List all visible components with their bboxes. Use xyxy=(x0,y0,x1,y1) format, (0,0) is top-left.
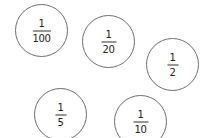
denominator: 10 xyxy=(134,124,146,134)
fraction-card-1-10: 1 10 xyxy=(114,95,167,138)
fraction: 1 5 xyxy=(55,102,66,127)
denominator: 100 xyxy=(32,33,50,43)
fraction: 1 10 xyxy=(133,109,148,134)
fraction-bar xyxy=(55,114,66,115)
denominator: 5 xyxy=(57,117,63,127)
numerator: 1 xyxy=(105,29,111,39)
fraction-bar xyxy=(133,121,148,122)
fraction-card-1-2: 1 2 xyxy=(146,38,199,91)
fraction-card-1-20: 1 20 xyxy=(82,15,135,68)
fraction: 1 20 xyxy=(101,29,116,54)
fraction: 1 100 xyxy=(32,18,50,43)
fraction-card-1-100: 1 100 xyxy=(15,4,68,57)
fraction-bar xyxy=(167,64,178,65)
denominator: 20 xyxy=(102,44,114,54)
fraction-bar xyxy=(33,30,51,31)
numerator: 1 xyxy=(57,102,63,112)
numerator: 1 xyxy=(137,109,143,119)
fraction-card-1-5: 1 5 xyxy=(34,88,87,138)
numerator: 1 xyxy=(169,52,175,62)
denominator: 2 xyxy=(169,67,175,77)
fraction: 1 2 xyxy=(167,52,178,77)
numerator: 1 xyxy=(38,18,44,28)
fraction-bar xyxy=(101,41,116,42)
